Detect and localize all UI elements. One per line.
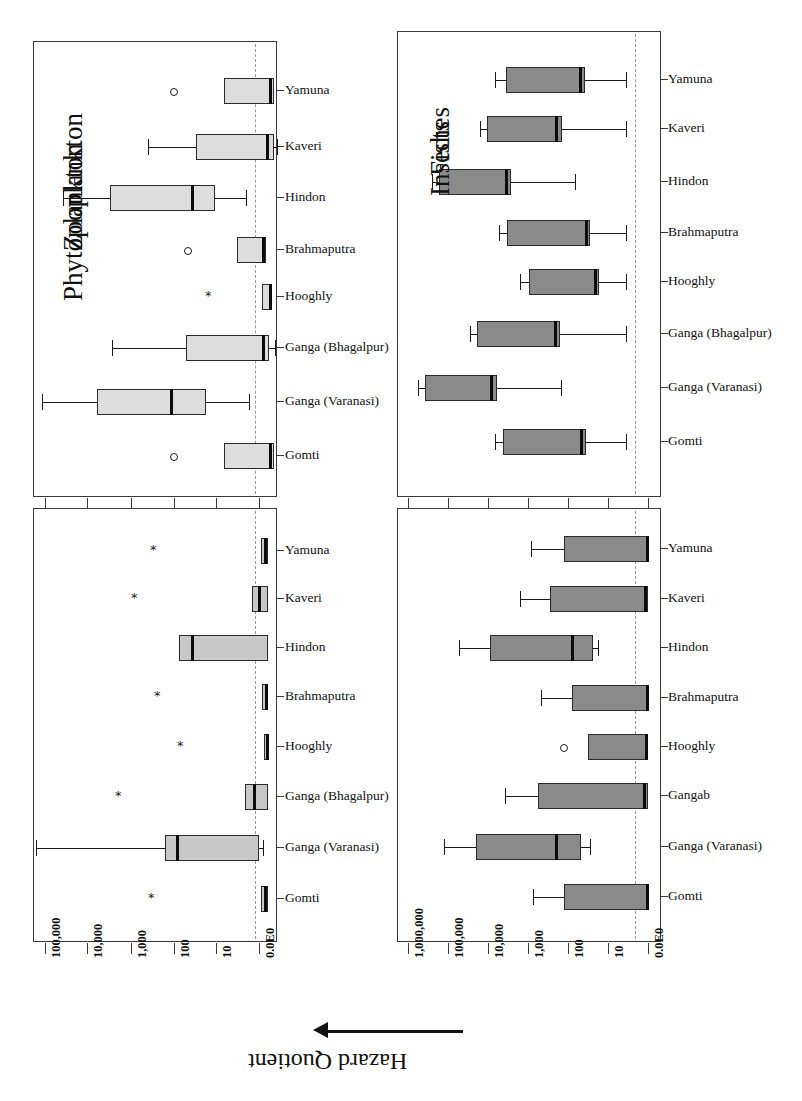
median-line [555, 834, 558, 860]
category-tick [277, 796, 284, 797]
median-line [262, 335, 265, 361]
median-line [266, 734, 269, 760]
whisker-cap-upper [590, 839, 591, 855]
median-line [585, 220, 588, 246]
whisker-lower [520, 282, 529, 283]
whisker-cap-upper [626, 225, 627, 241]
panel-insects: Insects [397, 508, 661, 942]
whisker-cap-upper [275, 340, 276, 356]
median-line [644, 586, 647, 612]
panel-title-insects: Insects [425, 121, 456, 196]
whisker-cap-lower [112, 340, 113, 356]
x-tick [216, 943, 217, 954]
category-tick [277, 598, 284, 599]
axis-title-hazard-quotient: Hazard Quotient [248, 1048, 407, 1075]
figure-canvas: Zooplankton*FishesPhytoplankton******Ins… [0, 0, 802, 1101]
category-tick [277, 296, 284, 297]
x-tick-label: 100 [572, 939, 587, 958]
whisker-cap-upper [626, 121, 627, 137]
whisker-cap-upper [626, 72, 627, 88]
outlier-star: * [154, 692, 161, 700]
whisker-cap-upper [598, 640, 599, 656]
x-tick [568, 943, 569, 954]
box-insects-3 [572, 685, 648, 711]
median-line [264, 538, 267, 564]
median-line [594, 269, 597, 295]
outlier-star: * [131, 594, 138, 602]
whisker-upper [586, 442, 626, 443]
box-zooplankton-5 [186, 335, 269, 361]
median-line [262, 237, 265, 263]
category-label-zooplankton-0: Yamuna [285, 83, 329, 97]
box-phytoplankton-6 [165, 835, 259, 861]
category-tick [661, 548, 668, 549]
category-tick [661, 647, 668, 648]
whisker-lower [495, 442, 503, 443]
whisker-cap-lower [495, 72, 496, 88]
box-zooplankton-6 [97, 389, 206, 415]
box-zooplankton-2 [110, 185, 215, 211]
whisker-cap-lower [470, 326, 471, 342]
median-line [264, 886, 267, 912]
category-tick [277, 249, 284, 250]
whisker-upper [497, 388, 561, 389]
box-fishes-6 [425, 375, 497, 401]
x-tick-label: 0.0E0 [652, 928, 667, 958]
category-label-fishes-6: Ganga (Varanasi) [668, 380, 762, 394]
category-tick [277, 401, 284, 402]
category-label-phytoplankton-1: Kaveri [285, 591, 322, 605]
whisker-cap-lower [36, 840, 37, 856]
outlier-star: * [205, 292, 212, 300]
whisker-cap-upper [263, 840, 264, 856]
x-tick [131, 943, 132, 954]
median-line [646, 884, 649, 910]
whisker-cap-lower [505, 788, 506, 804]
box-zooplankton-7 [224, 443, 274, 469]
whisker-cap-lower [533, 889, 534, 905]
category-tick [661, 232, 668, 233]
whisker-cap-lower [418, 380, 419, 396]
whisker-lower [495, 80, 506, 81]
outlier-circle [170, 453, 178, 461]
x-tick [408, 943, 409, 954]
whisker-lower [444, 847, 476, 848]
category-label-insects-1: Kaveri [668, 591, 705, 605]
whisker-upper [215, 198, 246, 199]
category-label-insects-2: Hindon [668, 640, 709, 654]
median-line [269, 78, 272, 104]
category-tick [277, 847, 284, 848]
box-insects-1 [550, 586, 648, 612]
whisker-upper [206, 402, 249, 403]
outlier-circle [184, 247, 192, 255]
whisker-lower [533, 897, 564, 898]
whisker-cap-lower [495, 434, 496, 450]
whisker-cap-upper [246, 190, 247, 206]
median-line [571, 635, 574, 661]
whisker-lower [505, 796, 538, 797]
category-tick [277, 146, 284, 147]
box-zooplankton-1 [196, 134, 274, 160]
x-tick [448, 943, 449, 954]
category-tick [277, 647, 284, 648]
x-tick [608, 943, 609, 954]
median-line [269, 284, 272, 310]
whisker-lower [36, 848, 165, 849]
box-insects-7 [564, 884, 648, 910]
box-fishes-5 [477, 321, 560, 347]
whisker-upper [562, 129, 626, 130]
median-line [253, 784, 256, 810]
whisker-lower [541, 698, 572, 699]
outlier-circle [170, 88, 178, 96]
x-tick-label: 10 [220, 946, 235, 959]
median-line [176, 835, 179, 861]
category-tick [277, 550, 284, 551]
x-tick [87, 943, 88, 954]
panel-fishes: Fishes [397, 31, 661, 497]
box-insects-2 [490, 635, 593, 661]
category-tick [661, 598, 668, 599]
threshold-line [255, 511, 256, 939]
category-tick [661, 333, 668, 334]
whisker-lower [418, 388, 425, 389]
category-label-insects-5: Gangab [668, 788, 710, 802]
whisker-cap-upper [249, 394, 250, 410]
